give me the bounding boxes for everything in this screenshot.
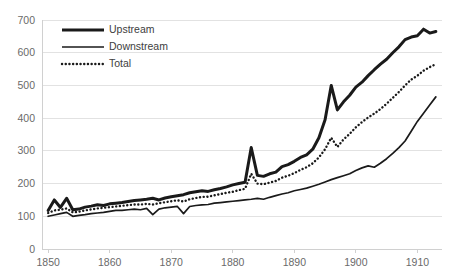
y-axis-tick-label: 600 [17,46,35,58]
line-chart: 0100200300400500600700 18501860187018801… [0,0,451,280]
y-axis-tick-label: 400 [17,112,35,124]
y-axis-tick-label: 500 [17,79,35,91]
x-axis-ticks: 1850186018701880189019001910 [36,256,429,268]
x-axis-tick-label: 1850 [36,256,60,268]
y-axis-tick-label: 200 [17,177,35,189]
x-axis-tick-label: 1910 [406,256,430,268]
axis-lines [42,20,442,253]
series-line-downstream [48,97,436,216]
series-line-total [48,64,436,213]
chart-container: 0100200300400500600700 18501860187018801… [0,0,451,280]
gridlines [42,20,442,249]
x-axis-tick-label: 1860 [98,256,122,268]
y-axis-tick-label: 700 [17,14,35,26]
y-axis-ticks: 0100200300400500600700 [17,14,35,255]
y-axis-tick-label: 0 [29,243,35,255]
x-axis-tick-label: 1890 [283,256,307,268]
legend-label-upstream: Upstream [109,23,155,35]
y-axis-tick-label: 300 [17,144,35,156]
legend-label-downstream: Downstream [109,40,168,52]
y-axis-tick-label: 100 [17,210,35,222]
x-axis-tick-label: 1900 [344,256,368,268]
x-axis-tick-label: 1870 [160,256,184,268]
legend-label-total: Total [109,57,131,69]
x-axis-tick-label: 1880 [221,256,245,268]
chart-legend: UpstreamDownstreamTotal [62,23,168,69]
series-lines [48,29,436,216]
